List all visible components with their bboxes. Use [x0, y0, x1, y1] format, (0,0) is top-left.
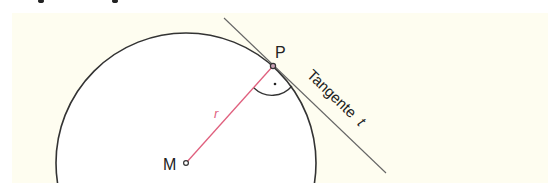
tangent-circle-diagram: M P r Tangente t [0, 0, 559, 191]
diagram-stage: M P r Tangente t [0, 0, 559, 191]
tangent-word: Tangente [304, 66, 360, 121]
tangent-symbol: t [354, 114, 369, 130]
right-angle-dot [274, 83, 277, 86]
label-radius-r: r [214, 106, 219, 121]
svg-text:Tangente t: Tangente t [304, 66, 370, 130]
tangent-label: Tangente t [304, 66, 370, 130]
label-center-m: M [163, 156, 176, 173]
tangent-point [270, 63, 275, 68]
label-point-p: P [275, 44, 286, 61]
cut-off-heading [38, 0, 118, 3]
center-point [184, 161, 189, 166]
